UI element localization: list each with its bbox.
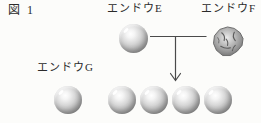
figure-canvas: 図 1 エンドウE エンドウF エンドウG (0, 0, 261, 123)
pea-f-label: エンドウF (201, 3, 256, 14)
offspring-round-pea-icon (204, 86, 232, 114)
wrinkled-pea-f-icon (212, 26, 245, 57)
pea-g-label: エンドウG (37, 62, 94, 73)
round-pea-e-icon (119, 24, 148, 53)
offspring-row (108, 86, 232, 114)
offspring-round-pea-icon (140, 86, 168, 114)
offspring-round-pea-icon (108, 86, 136, 114)
figure-label: 図 1 (8, 4, 35, 16)
pea-e-label: エンドウE (107, 3, 163, 14)
offspring-round-pea-icon (172, 86, 200, 114)
round-pea-g-icon (54, 86, 82, 114)
